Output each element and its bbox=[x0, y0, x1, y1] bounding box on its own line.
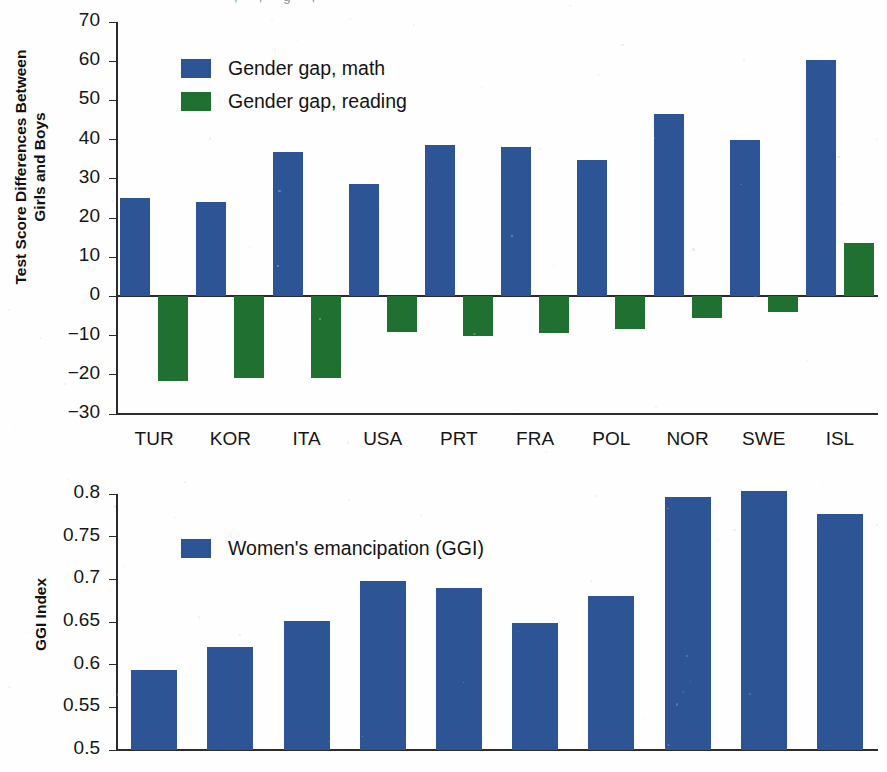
bar-pol-primary bbox=[588, 596, 634, 750]
y-tick-label: 0.6 bbox=[6, 652, 100, 674]
bar-fra-primary bbox=[501, 147, 531, 296]
y-tick-label: −20 bbox=[6, 362, 100, 384]
cropped-header-text: , , g , bbox=[200, 0, 332, 4]
bar-kor-primary bbox=[196, 202, 226, 296]
legend-swatch-math-icon bbox=[181, 59, 211, 78]
bar-pol-primary bbox=[577, 160, 607, 296]
bar-usa-primary bbox=[360, 581, 406, 750]
legend-label-ggi: Women's emancipation (GGI) bbox=[228, 537, 484, 560]
bar-ita-primary bbox=[284, 621, 330, 750]
bar-swe-primary bbox=[730, 140, 760, 296]
y-tick-label: 0.55 bbox=[6, 694, 100, 716]
bar-kor-secondary bbox=[234, 296, 264, 378]
y-tick bbox=[109, 178, 116, 179]
y-tick bbox=[109, 750, 116, 751]
y-tick bbox=[109, 374, 116, 375]
bar-prt-primary bbox=[436, 588, 482, 750]
y-tick bbox=[109, 335, 116, 336]
y-tick-label: 30 bbox=[6, 166, 100, 188]
y-tick-label: 70 bbox=[6, 9, 100, 31]
y-tick-label: 50 bbox=[6, 87, 100, 109]
ggi-legend: Women's emancipation (GGI) bbox=[181, 537, 484, 570]
y-tick-label: 60 bbox=[6, 48, 100, 70]
y-tick bbox=[109, 622, 116, 623]
legend-item-ggi: Women's emancipation (GGI) bbox=[181, 537, 484, 560]
bar-ita-primary bbox=[273, 152, 303, 296]
bar-ita-secondary bbox=[311, 296, 341, 378]
y-tick bbox=[109, 579, 116, 580]
bar-pol-secondary bbox=[615, 296, 645, 329]
y-tick-label: 0.8 bbox=[6, 481, 100, 503]
bar-kor-primary bbox=[207, 647, 253, 750]
y-tick-label: 20 bbox=[6, 205, 100, 227]
y-tick-label: 0.75 bbox=[6, 524, 100, 546]
legend-item-reading: Gender gap, reading bbox=[181, 90, 407, 113]
bar-swe-secondary bbox=[768, 296, 798, 312]
y-tick-label: 10 bbox=[6, 244, 100, 266]
y-tick bbox=[109, 296, 116, 297]
y-tick bbox=[109, 61, 116, 62]
gender-gap-figure: Test Score Differences Between Girls and… bbox=[0, 8, 887, 473]
chart-page: , , g , Test Score Differences Between G… bbox=[0, 0, 887, 772]
bar-nor-primary bbox=[654, 114, 684, 296]
bar-prt-secondary bbox=[463, 296, 493, 335]
baseline-axis bbox=[116, 295, 878, 297]
y-tick bbox=[109, 22, 116, 23]
y-tick bbox=[109, 139, 116, 140]
y-tick bbox=[109, 257, 116, 258]
y-tick bbox=[109, 100, 116, 101]
y-tick-label: 40 bbox=[6, 127, 100, 149]
y-axis-line bbox=[116, 22, 118, 414]
bar-usa-secondary bbox=[387, 296, 417, 332]
ggi-plot-area: 0.80.750.70.650.60.550.5 bbox=[116, 494, 878, 750]
bar-prt-primary bbox=[425, 145, 455, 296]
y-tick-label: 0.7 bbox=[6, 566, 100, 588]
bar-tur-secondary bbox=[158, 296, 188, 381]
y-tick bbox=[109, 218, 116, 219]
bar-fra-secondary bbox=[539, 296, 569, 333]
y-tick-label: 0.65 bbox=[6, 609, 100, 631]
y-tick bbox=[109, 414, 116, 415]
bar-isl-primary bbox=[806, 60, 836, 297]
y-tick bbox=[109, 536, 116, 537]
legend-item-math: Gender gap, math bbox=[181, 57, 407, 80]
y-tick bbox=[109, 664, 116, 665]
bar-usa-primary bbox=[349, 184, 379, 297]
bar-nor-primary bbox=[665, 497, 711, 750]
bar-isl-primary bbox=[817, 514, 863, 750]
y-tick-label: −30 bbox=[6, 401, 100, 423]
bar-tur-primary bbox=[131, 670, 177, 750]
bar-tur-primary bbox=[120, 198, 150, 296]
y-tick bbox=[109, 707, 116, 708]
y-tick-label: 0.5 bbox=[6, 737, 100, 759]
bar-fra-primary bbox=[512, 623, 558, 750]
y-tick-label: 0 bbox=[6, 283, 100, 305]
cropped-header-strip: , , g , bbox=[0, 0, 887, 8]
legend-label-math: Gender gap, math bbox=[228, 57, 385, 80]
y-tick-label: −10 bbox=[6, 323, 100, 345]
legend-label-reading: Gender gap, reading bbox=[228, 90, 407, 113]
bar-swe-primary bbox=[741, 491, 787, 750]
ggi-figure: GGI Index 0.80.750.70.650.60.550.5 Women… bbox=[0, 480, 887, 772]
x-tick-label-isl: ISL bbox=[790, 428, 887, 450]
legend-swatch-reading-icon bbox=[181, 92, 211, 111]
bar-isl-secondary bbox=[844, 243, 874, 296]
gender-gap-legend: Gender gap, math Gender gap, reading bbox=[181, 57, 407, 123]
plot-floor-line bbox=[116, 413, 878, 415]
y-tick bbox=[109, 494, 116, 495]
bar-nor-secondary bbox=[692, 296, 722, 317]
y-axis-line bbox=[116, 494, 118, 750]
legend-swatch-ggi-icon bbox=[181, 539, 211, 558]
